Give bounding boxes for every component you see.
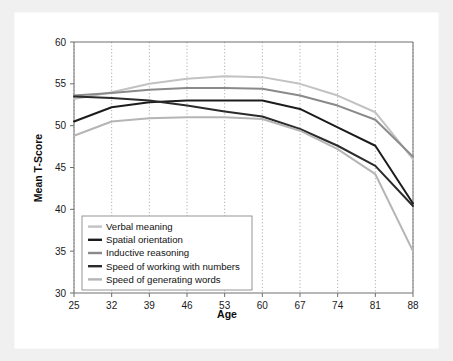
image-frame: 30354045505560 25323946536067748188 Age … bbox=[0, 0, 453, 361]
y-axis: 30354045505560 bbox=[55, 37, 74, 299]
x-tick-label-60: 60 bbox=[257, 300, 269, 311]
legend-label-1: Spatial orientation bbox=[106, 234, 183, 245]
x-tick-label-46: 46 bbox=[181, 300, 193, 311]
legend-label-0: Verbal meaning bbox=[106, 221, 173, 232]
y-tick-label-30: 30 bbox=[55, 288, 67, 299]
y-axis-title: Mean T-Score bbox=[32, 134, 44, 202]
legend-label-4: Speed of generating words bbox=[106, 274, 221, 285]
y-tick-label-40: 40 bbox=[55, 204, 67, 215]
y-tick-label-55: 55 bbox=[55, 78, 67, 89]
legend-label-2: Inductive reasoning bbox=[106, 247, 189, 258]
x-tick-label-25: 25 bbox=[68, 300, 80, 311]
x-axis-title: Age bbox=[217, 308, 237, 320]
y-tick-label-60: 60 bbox=[55, 37, 67, 48]
chart-legend: Verbal meaningSpatial orientationInducti… bbox=[82, 216, 252, 290]
x-axis: 25323946536067748188 bbox=[68, 293, 419, 311]
x-tick-label-39: 39 bbox=[144, 300, 156, 311]
x-tick-label-67: 67 bbox=[294, 300, 306, 311]
line-chart: 30354045505560 25323946536067748188 Age … bbox=[0, 0, 453, 361]
x-tick-label-81: 81 bbox=[370, 300, 382, 311]
x-tick-label-88: 88 bbox=[407, 300, 419, 311]
x-tick-label-32: 32 bbox=[106, 300, 118, 311]
y-tick-label-35: 35 bbox=[55, 246, 67, 257]
y-tick-label-50: 50 bbox=[55, 120, 67, 131]
y-tick-label-45: 45 bbox=[55, 162, 67, 173]
legend-label-3: Speed of working with numbers bbox=[106, 261, 240, 272]
x-tick-label-74: 74 bbox=[332, 300, 344, 311]
